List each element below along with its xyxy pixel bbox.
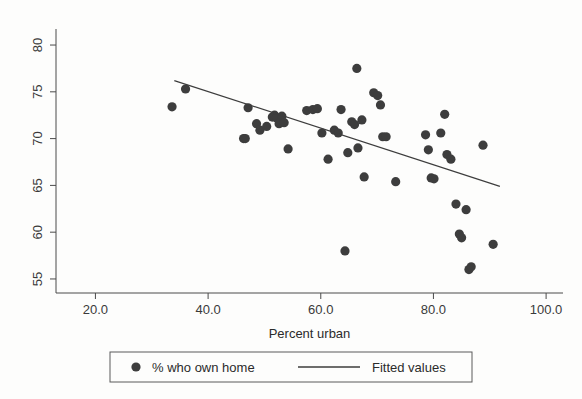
x-axis-title: Percent urban	[269, 326, 351, 341]
scatter-point	[353, 143, 362, 152]
scatter-point	[360, 172, 369, 181]
x-tick-label: 60.0	[308, 302, 333, 317]
y-tick-label: 65	[31, 178, 46, 192]
legend-circle-marker-icon	[131, 362, 140, 371]
scatter-point	[462, 205, 471, 214]
scatter-point	[352, 64, 361, 73]
scatter-point	[167, 102, 176, 111]
scatter-point	[478, 141, 487, 150]
scatter-point	[340, 246, 349, 255]
scatter-point	[424, 145, 433, 154]
legend-label-fit: Fitted values	[372, 360, 446, 375]
scatter-point	[429, 174, 438, 183]
scatter-point	[489, 240, 498, 249]
scatter-point	[421, 130, 430, 139]
scatter-point	[283, 144, 292, 153]
y-tick-label: 70	[31, 131, 46, 145]
scatter-point	[446, 155, 455, 164]
scatter-point	[373, 91, 382, 100]
scatter-point	[343, 148, 352, 157]
scatter-point	[440, 110, 449, 119]
scatter-point	[357, 115, 366, 124]
scatter-point	[336, 105, 345, 114]
scatter-point	[280, 118, 289, 127]
scatter-plot: 556065707580 20.040.060.080.0100.0 Perce…	[0, 0, 582, 399]
x-tick-label: 100.0	[530, 302, 563, 317]
scatter-point	[457, 233, 466, 242]
scatter-point	[382, 132, 391, 141]
y-tick-label: 55	[31, 272, 46, 286]
scatter-point	[436, 128, 445, 137]
scatter-point	[451, 200, 460, 209]
scatter-point	[391, 177, 400, 186]
scatter-point	[241, 134, 250, 143]
y-tick-label: 75	[31, 85, 46, 99]
y-tick-label: 60	[31, 225, 46, 239]
scatter-point	[323, 155, 332, 164]
scatter-point	[376, 100, 385, 109]
chart-figure: 556065707580 20.040.060.080.0100.0 Perce…	[0, 0, 582, 399]
y-tick-label: 80	[31, 38, 46, 52]
scatter-point	[467, 262, 476, 271]
x-tick-label: 80.0	[421, 302, 446, 317]
chart-legend: % who own home Fitted values	[110, 352, 472, 382]
legend-label-points: % who own home	[152, 360, 255, 375]
x-tick-label: 40.0	[195, 302, 220, 317]
x-tick-label: 20.0	[83, 302, 108, 317]
scatter-point	[262, 122, 271, 131]
scatter-point	[313, 104, 322, 113]
